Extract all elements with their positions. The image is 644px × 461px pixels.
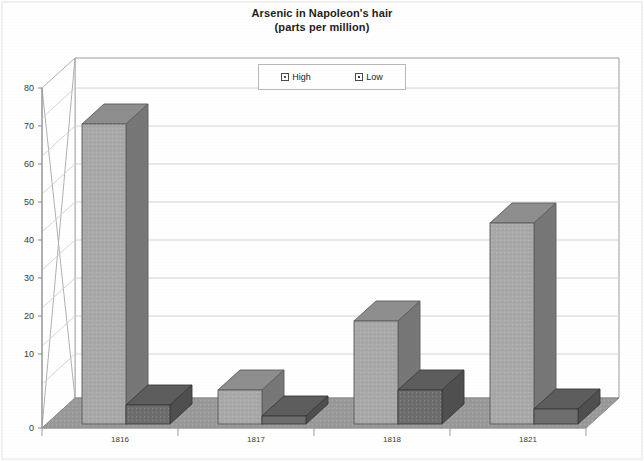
y-tick-40: 40 — [4, 236, 34, 245]
x-tick-1821: 1821 — [498, 435, 558, 444]
chart-page: Arsenic in Napoleon's hair (parts per mi… — [0, 0, 644, 461]
y-tick-70: 70 — [4, 122, 34, 131]
y-tick-60: 60 — [4, 160, 34, 169]
y-tick-50: 50 — [4, 198, 34, 207]
chart-legend: High Low — [258, 64, 406, 90]
legend-item-low: Low — [355, 72, 383, 82]
bar-1821-high — [490, 203, 556, 424]
legend-item-high: High — [281, 72, 311, 82]
y-tick-30: 30 — [4, 274, 34, 283]
y-tick-20: 20 — [4, 312, 34, 321]
legend-swatch-low-icon — [355, 73, 363, 81]
legend-label-high: High — [292, 72, 311, 82]
y-tick-0: 0 — [4, 424, 34, 433]
x-tick-1818: 1818 — [362, 435, 422, 444]
legend-label-low: Low — [366, 72, 383, 82]
x-tick-1817: 1817 — [226, 435, 286, 444]
y-tick-10: 10 — [4, 350, 34, 359]
y-tick-80: 80 — [4, 84, 34, 93]
y-axis — [38, 88, 42, 428]
bar-1816-high — [82, 104, 148, 424]
x-tick-1816: 1816 — [90, 435, 150, 444]
legend-swatch-high-icon — [281, 73, 289, 81]
